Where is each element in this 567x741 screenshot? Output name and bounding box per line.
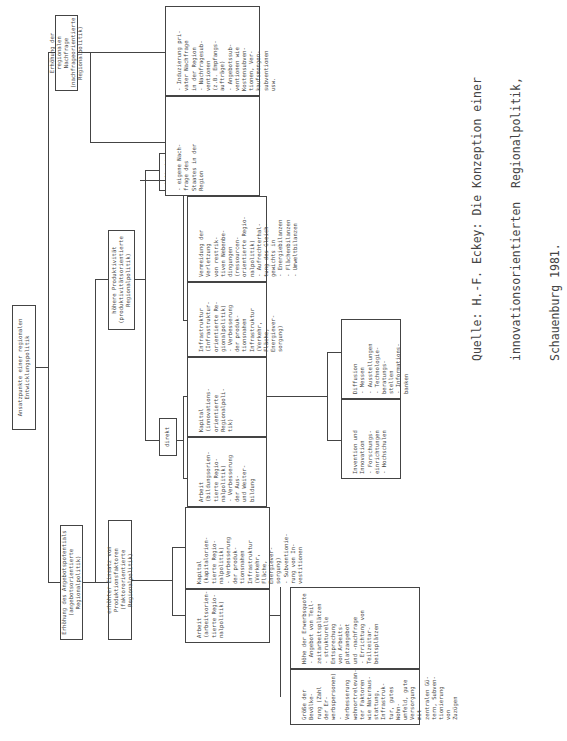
connector: [145, 170, 159, 171]
leaf-text: Arbeit (arbeitsorien- tierte Regio- nalp…: [196, 591, 224, 638]
leaf-arbeit-quote: Höhe der Erwerbsquote - Angebot von Teil…: [290, 587, 420, 669]
connector: [90, 142, 165, 143]
direkt-box: direkt: [159, 418, 177, 456]
leaf-text: Kapital (kapitalorien- tierte Regio- nal…: [196, 533, 303, 584]
productivity-subtitle: (produktivitätsorientierte Regionalpolit…: [118, 235, 132, 325]
leaf-demand-private: - Induzierung pri- vater Nachfrage in de…: [165, 6, 260, 96]
leaf-text: Arbeit (bildungsorien- tierte Regio- nal…: [198, 451, 254, 502]
demand-box: Erhöhung der regionalen Nachfrage (nachf…: [55, 15, 78, 91]
leaf-demand-state: - eigene Nach- frage des Staates in der …: [165, 96, 260, 196]
demand-title: Erhöhung der regionalen Nachfrage: [49, 20, 71, 86]
root-box: Ansatzpunkte einer regionalen Entwicklun…: [12, 305, 36, 430]
leaf-text: Infrastruktur (Infrastruktur- orientiert…: [198, 301, 283, 352]
root-title: Ansatzpunkte einer regionalen Entwicklun…: [17, 310, 31, 425]
connector: [145, 440, 159, 441]
connector: [95, 279, 108, 280]
leaf-arbeit-size: Größe der Bevölke- rung (Zahl der Er- we…: [290, 669, 420, 725]
connector: [270, 615, 280, 616]
productivity-title: höhere Produktivität: [111, 246, 118, 313]
connector: [135, 279, 145, 280]
leaf-text: Invention und Innovation - Forschungs- e…: [352, 430, 387, 474]
connector: [90, 53, 91, 143]
connector: [48, 582, 60, 583]
connector: [95, 280, 96, 583]
leaf-prod-infra: Infrastruktur (Infrastruktur- orientiert…: [187, 282, 267, 357]
source-line-3: Schauenburg 1981.: [549, 77, 562, 361]
leaf-text: - eigene Nach- frage des Staates in der …: [176, 144, 204, 191]
connector: [132, 580, 172, 581]
connector: [172, 548, 173, 616]
leaf-innovation: Invention und Innovation - Forschungs- e…: [341, 399, 401, 479]
connector: [36, 367, 48, 368]
supply-box: Erhöhung des Angebotspotentials (angebot…: [60, 525, 83, 640]
supply-subtitle: (angebotsorientierte Regionalpolitik): [68, 530, 82, 635]
connector: [48, 53, 49, 583]
leaf-diffusion: Diffusion - Messen - Ausstellungen - Tec…: [341, 319, 401, 399]
factor-box: erhöhter Einsatz von Produktionsfaktoren…: [108, 520, 132, 640]
leaf-text: Vermeidung der Verletzung von restrik- t…: [198, 216, 298, 277]
leaf-text: - Induzierung pri- vater Nachfrage in de…: [176, 30, 276, 91]
leaf-prod-vermeidung: Vermeidung der Verletzung von restrik- t…: [187, 196, 267, 282]
leaf-text: Diffusion - Messen - Ausstellungen - Tec…: [352, 343, 408, 394]
connector: [267, 396, 327, 397]
leaf-text: Kapital (innovations- orientierte Region…: [198, 388, 233, 432]
supply-title: Erhöhung des Angebotspotentials: [61, 530, 68, 634]
connector: [172, 547, 185, 548]
productivity-box: höhere Produktivität (produktivitätsorie…: [108, 230, 135, 330]
connector: [172, 615, 185, 616]
connector: [183, 397, 184, 479]
connector: [83, 582, 95, 583]
leaf-prod-kapital: Kapital (innovations- orientierte Region…: [187, 357, 267, 437]
connector: [145, 171, 146, 441]
leaf-text: Größe der Bevölke- rung (Zahl der Er- we…: [301, 669, 458, 720]
source-line-1: Quelle: H.-F. Eckey: Die Konzeption eine…: [471, 77, 484, 361]
source-citation: Quelle: H.-F. Eckey: Die Konzeption eine…: [445, 77, 567, 361]
connector: [78, 52, 90, 53]
connector: [327, 440, 341, 441]
leaf-factor-kapital: Kapital (kapitalorien- tierte Regio- nal…: [185, 507, 270, 589]
connector: [327, 352, 341, 353]
direkt-label: direkt: [164, 427, 171, 447]
leaf-prod-arbeit: Arbeit (bildungsorien- tierte Regio- nal…: [187, 437, 267, 507]
connector: [90, 52, 165, 53]
leaf-text: Höhe der Erwerbsquote - Angebot von Teil…: [301, 593, 379, 664]
connector: [327, 353, 328, 441]
leaf-factor-arbeit: Arbeit (arbeitsorien- tierte Regio- nalp…: [185, 589, 270, 643]
source-line-2: innovationsorientierten Regionalpolitik,: [510, 77, 523, 361]
factor-title: erhöhter Einsatz von Produktionsfaktoren: [106, 525, 120, 635]
connector: [280, 587, 281, 697]
